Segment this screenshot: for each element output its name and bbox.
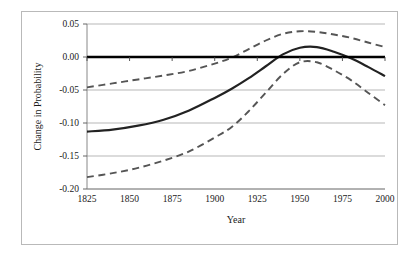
x-tick-label: 1875: [163, 194, 182, 204]
x-axis-tick-labels: 18251850187519001925195019752000: [78, 194, 395, 204]
y-tick-label: -0.10: [59, 118, 79, 128]
y-tick-label: 0.05: [62, 19, 79, 29]
zero-reference-line: [87, 57, 385, 61]
chart-canvas: 0.050.00-0.05-0.10-0.15-0.20 18251850187…: [0, 0, 415, 257]
y-tick-label: -0.15: [59, 151, 79, 161]
data-series-group: [87, 31, 385, 177]
x-tick-label: 1825: [78, 194, 97, 204]
x-tick-label: 1950: [290, 194, 309, 204]
x-tick-label: 1900: [205, 194, 224, 204]
x-tick-label: 2000: [376, 194, 395, 204]
y-axis-title: Change in Probability: [32, 63, 43, 151]
x-tick-label: 1925: [248, 194, 267, 204]
x-axis-title: Year: [227, 214, 246, 225]
figure-container: 0.050.00-0.05-0.10-0.15-0.20 18251850187…: [0, 0, 415, 257]
data-series-line: [87, 47, 385, 132]
y-tick-label: -0.20: [59, 184, 79, 194]
data-series-line: [87, 61, 385, 177]
x-tick-label: 1975: [333, 194, 352, 204]
data-series-line: [87, 31, 385, 87]
y-tick-label: -0.05: [59, 85, 79, 95]
y-axis-tick-labels: 0.050.00-0.05-0.10-0.15-0.20: [59, 19, 79, 194]
y-axis-tick-marks: [83, 24, 87, 189]
x-tick-label: 1850: [120, 194, 139, 204]
plot-axis-lines: [87, 24, 385, 189]
gridlines-group: [87, 24, 385, 189]
y-tick-label: 0.00: [62, 52, 79, 62]
